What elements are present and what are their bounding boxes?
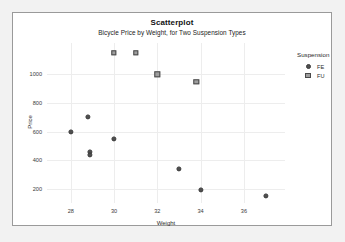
data-point-fu	[155, 72, 160, 77]
page-background: Scatterplot Bicycle Price by Weight, for…	[0, 0, 345, 242]
data-point-fu	[194, 79, 199, 84]
data-point-fu	[133, 50, 138, 55]
x-tick-label: 28	[68, 208, 74, 214]
x-tick-label: 36	[241, 208, 247, 214]
gridline-horizontal	[47, 103, 285, 104]
gridline-horizontal	[47, 160, 285, 161]
y-tick-label: 1000	[13, 71, 42, 77]
y-tick-label: 800	[13, 100, 42, 106]
gridline-horizontal	[47, 74, 285, 75]
gridline-vertical	[114, 43, 115, 203]
gridline-vertical	[71, 43, 72, 203]
chart-subtitle: Bicycle Price by Weight, for Two Suspens…	[13, 29, 331, 36]
x-axis-label: Weight	[47, 220, 285, 226]
legend-item-fu[interactable]: FU	[303, 71, 345, 80]
gridline-horizontal	[47, 189, 285, 190]
gridline-vertical	[244, 43, 245, 203]
legend-items: FEFU	[297, 62, 345, 80]
legend-label: FU	[317, 73, 324, 79]
legend-item-fe[interactable]: FE	[303, 62, 345, 71]
legend: Suspension FEFU	[297, 51, 345, 80]
data-point-fu	[111, 50, 116, 55]
y-tick-label: 400	[13, 157, 42, 163]
gridline-vertical	[157, 43, 158, 203]
x-tick-label: 30	[111, 208, 117, 214]
legend-marker-icon	[303, 64, 313, 69]
chart-figure: Scatterplot Bicycle Price by Weight, for…	[12, 12, 332, 226]
gridline-horizontal	[47, 132, 285, 133]
legend-marker-icon	[303, 73, 313, 78]
gridline-vertical	[201, 43, 202, 203]
chart-title: Scatterplot	[13, 18, 331, 27]
square-marker-icon	[305, 73, 310, 78]
legend-title: Suspension	[297, 51, 345, 58]
x-tick-label: 34	[197, 208, 203, 214]
y-tick-label: 200	[13, 186, 42, 192]
legend-label: FE	[317, 64, 324, 70]
plot-background	[47, 43, 285, 203]
plot-area	[47, 43, 285, 203]
x-tick-label: 32	[154, 208, 160, 214]
circle-marker-icon	[306, 64, 311, 69]
y-tick-label: 600	[13, 129, 42, 135]
